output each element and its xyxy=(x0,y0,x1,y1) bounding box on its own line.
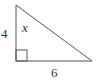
horizontal-leg-label: 6 xyxy=(51,65,58,80)
angle-label: x xyxy=(21,20,28,35)
right-triangle-diagram: 4 x 6 xyxy=(0,0,99,81)
right-angle-marker xyxy=(16,50,27,61)
vertical-leg-label: 4 xyxy=(1,26,8,41)
